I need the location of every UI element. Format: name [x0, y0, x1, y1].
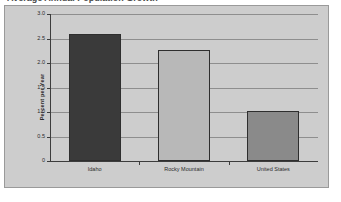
x-axis-label-rocky-mountain: Rocky Mountain [164, 167, 203, 173]
y-tick-mark [47, 137, 51, 138]
plot-area: 00.51.01.52.02.53.0 [50, 14, 318, 162]
y-tick-label: 1.5 [37, 85, 45, 91]
y-tick-label: 0.5 [37, 134, 45, 140]
chart-title: Average Annual Population Growth [7, 0, 207, 3]
gridline [50, 14, 318, 15]
y-tick-mark [47, 112, 51, 113]
y-tick-mark [47, 161, 51, 162]
category-separator [139, 161, 140, 165]
y-tick-label: 3.0 [37, 11, 45, 17]
x-axis-label-idaho: Idaho [88, 167, 102, 173]
bar-united-states[interactable] [247, 111, 299, 161]
y-tick-label: 0 [42, 158, 45, 164]
bar-idaho[interactable] [69, 34, 121, 161]
y-tick-mark [47, 14, 51, 15]
y-tick-mark [47, 88, 51, 89]
category-separator [229, 161, 230, 165]
x-axis-label-united-states: United States [257, 167, 290, 173]
y-tick-label: 2.5 [37, 36, 45, 42]
bar-rocky-mountain[interactable] [158, 50, 210, 161]
x-axis-line [50, 161, 318, 162]
y-tick-label: 2.0 [37, 60, 45, 66]
chart-frame: Percent per Year 00.51.01.52.02.53.0 Ida… [4, 5, 329, 188]
y-tick-mark [47, 39, 51, 40]
y-tick-mark [47, 63, 51, 64]
y-tick-label: 1.0 [37, 109, 45, 115]
